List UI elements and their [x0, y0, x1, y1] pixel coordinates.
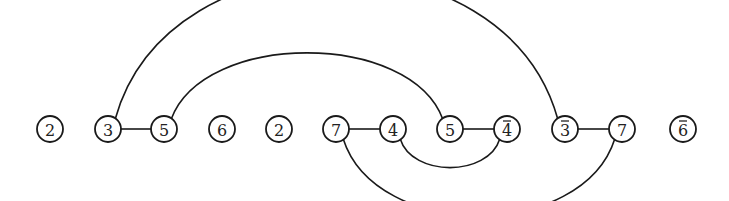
diagram-node: 5 — [437, 116, 463, 142]
diagram-node: 7 — [323, 116, 349, 142]
diagram-node: 6 — [670, 116, 696, 142]
diagram-node: 3 — [95, 116, 121, 142]
diagram-node: 2 — [37, 116, 63, 142]
node-label: 6 — [678, 121, 688, 140]
diagram-node: 3 — [552, 116, 578, 142]
edges-layer — [115, 0, 615, 201]
diagram-node: 4 — [494, 116, 520, 142]
node-label: 7 — [617, 121, 627, 140]
node-label: 2 — [45, 121, 55, 140]
node-label: 3 — [103, 121, 113, 140]
node-label: 3 — [560, 121, 570, 140]
diagram-node: 7 — [609, 116, 635, 142]
diagram-node: 6 — [209, 116, 235, 142]
node-label: 4 — [502, 121, 512, 140]
diagram-node: 2 — [266, 116, 292, 142]
node-label: 2 — [274, 121, 284, 140]
edge-n6-n8 — [400, 139, 500, 168]
node-label: 7 — [331, 121, 341, 140]
node-label: 5 — [445, 121, 455, 140]
node-label: 4 — [388, 121, 398, 140]
edge-n5-n10 — [343, 139, 615, 201]
edge-n2-n7 — [171, 53, 443, 119]
arc-diagram: 235627454376 — [0, 0, 729, 201]
diagram-node: 4 — [380, 116, 406, 142]
node-label: 6 — [217, 121, 227, 140]
diagram-node: 5 — [151, 116, 177, 142]
node-label: 5 — [159, 121, 169, 140]
